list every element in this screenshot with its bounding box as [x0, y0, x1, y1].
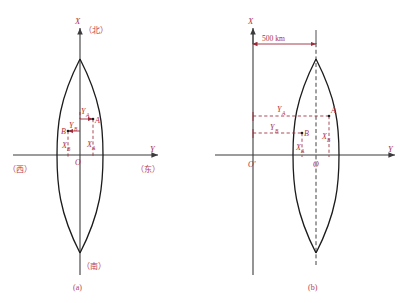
panel-a-label-y-a: Y A [81, 107, 90, 118]
panel-b-label-y-a-sub: A [281, 110, 286, 116]
panel-b-zone-east-boundary [316, 59, 339, 253]
panel-a-zone-west-boundary [57, 59, 80, 253]
panel-b-point-a-marker [328, 115, 331, 118]
panel-b-label-x-b-sub: B [327, 137, 331, 143]
panel-b-x-axis-label: X [247, 16, 254, 26]
panel-b-label-y-b: Y B [270, 123, 279, 134]
panel-b-label-x-a-sub: A [300, 148, 305, 154]
panel-b: 500 km X Y O' O A B Y A [215, 16, 395, 292]
panel-a-point-b-marker [67, 130, 70, 133]
panel-b-label-x-b: X B [321, 132, 331, 143]
panel-a-west-label: （西） [8, 165, 32, 174]
panel-a-zone-east-boundary [80, 59, 103, 253]
panel-b-shifted-origin-label: O' [248, 160, 256, 169]
panel-a-label-x-a-sub: A [91, 145, 96, 151]
panel-b-caption: (b) [308, 283, 318, 292]
panel-a: X （北） Y （东） （西） （南） O A B Y A Y B X [8, 16, 160, 292]
panel-b-y-axis-label: Y [388, 144, 394, 154]
panel-a-point-b-label: B [61, 127, 66, 136]
panel-a-caption: (a) [73, 283, 82, 292]
panel-a-label-x-b-sub: B [67, 146, 71, 152]
panel-b-label-y-a: Y A [277, 105, 286, 116]
panel-b-label-x-a: X A [295, 143, 305, 154]
panel-a-label-y-a-sub: A [85, 112, 90, 118]
panel-a-point-a-label: A [94, 116, 100, 125]
panel-a-north-label: （北） [84, 26, 108, 35]
panel-b-point-a-label: A [330, 106, 336, 115]
figure-container: X （北） Y （东） （西） （南） O A B Y A Y B X [0, 0, 406, 303]
panel-a-label-x-a: X A [86, 140, 96, 151]
panel-a-origin-label: O [75, 158, 81, 167]
panel-b-zone-west-boundary [293, 59, 316, 253]
panel-a-label-x-b: X B [61, 141, 71, 152]
panel-a-point-a-marker [92, 118, 95, 121]
figure-svg: X （北） Y （东） （西） （南） O A B Y A Y B X [0, 0, 406, 303]
panel-a-x-axis-label: X [74, 16, 81, 26]
panel-b-dimension-label: 500 km [262, 34, 285, 43]
panel-b-point-b-marker [301, 132, 304, 135]
panel-a-south-label: （南） [82, 261, 106, 271]
panel-b-point-b-label: B [304, 129, 309, 138]
panel-b-origin-label: O [313, 160, 319, 169]
panel-a-east-label: （东） [136, 164, 160, 174]
panel-a-y-axis-label: Y [150, 144, 156, 154]
panel-a-label-y-b: Y B [69, 121, 78, 132]
